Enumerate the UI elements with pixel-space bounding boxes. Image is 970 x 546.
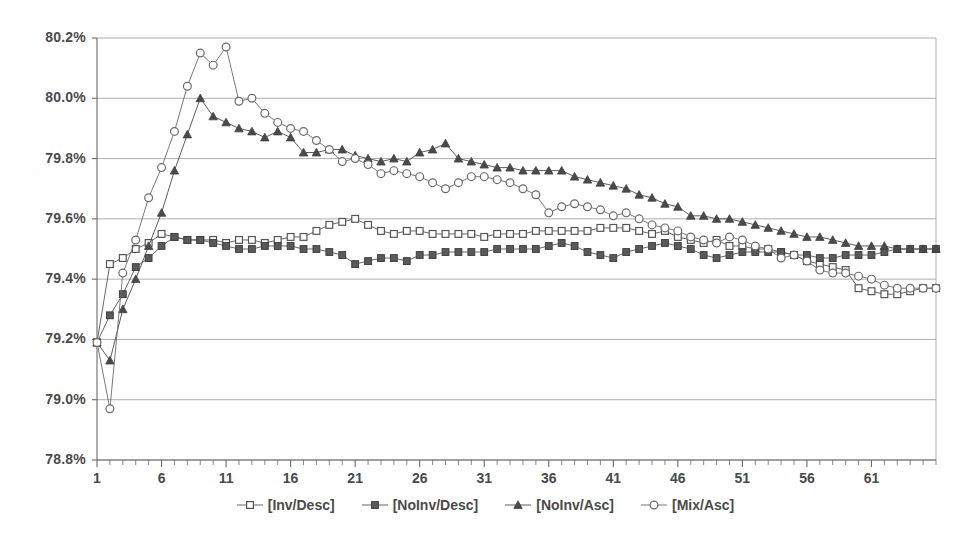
legend-marker-icon	[361, 498, 389, 512]
y-axis-tick-label: 79.2%	[0, 330, 86, 346]
y-axis-tick-label: 78.8%	[0, 451, 86, 467]
legend-marker-icon	[640, 498, 668, 512]
x-axis-tick-label: 11	[206, 470, 246, 486]
chart-legend: [Inv/Desc][NoInv/Desc][NoInv/Asc][Mix/As…	[0, 497, 970, 513]
legend-item-label: [Inv/Desc]	[268, 497, 335, 513]
x-axis-tick-label: 26	[400, 470, 440, 486]
y-axis-tick-label: 79.4%	[0, 270, 86, 286]
legend-item[interactable]: [NoInv/Desc]	[361, 497, 479, 513]
series-3	[93, 94, 940, 364]
x-axis-tick-label: 46	[658, 470, 698, 486]
chart-container: 80.2%80.0%79.8%79.6%79.4%79.2%79.0%78.8%…	[0, 0, 970, 546]
x-axis-tick-label: 56	[787, 470, 827, 486]
x-axis-tick-label: 31	[464, 470, 504, 486]
legend-item[interactable]: [Inv/Desc]	[236, 497, 335, 513]
y-axis-tick-label: 79.6%	[0, 210, 86, 226]
series-1	[94, 215, 940, 345]
x-axis-tick-label: 21	[335, 470, 375, 486]
x-axis-ticks	[97, 460, 936, 467]
x-axis-tick-label: 6	[142, 470, 182, 486]
legend-item[interactable]: [Mix/Asc]	[640, 497, 734, 513]
chart-plot-area	[0, 0, 970, 546]
y-axis-tick-label: 80.0%	[0, 89, 86, 105]
y-axis-tick-label: 80.2%	[0, 29, 86, 45]
legend-item-label: [Mix/Asc]	[672, 497, 734, 513]
x-axis-tick-label: 16	[271, 470, 311, 486]
x-axis-tick-label: 61	[851, 470, 891, 486]
series-2	[94, 234, 940, 346]
y-axis-ticks	[92, 38, 97, 460]
legend-marker-icon	[236, 498, 264, 512]
x-axis-tick-label: 41	[593, 470, 633, 486]
x-axis-tick-label: 1	[77, 470, 117, 486]
legend-item-label: [NoInv/Asc]	[536, 497, 614, 513]
y-axis-tick-label: 79.8%	[0, 150, 86, 166]
y-axis-tick-label: 79.0%	[0, 391, 86, 407]
legend-item[interactable]: [NoInv/Asc]	[504, 497, 614, 513]
legend-item-label: [NoInv/Desc]	[393, 497, 479, 513]
x-axis-tick-label: 36	[529, 470, 569, 486]
legend-marker-icon	[504, 498, 532, 512]
x-axis-tick-label: 51	[722, 470, 762, 486]
